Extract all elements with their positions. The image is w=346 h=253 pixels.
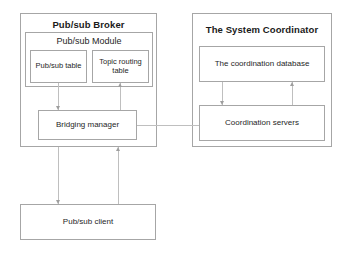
arrowhead-up-bridging-to-topic-routing <box>118 83 122 87</box>
coordination-database-box: The coordination database <box>199 46 325 82</box>
pubsub-module-title: Pub/sub Module <box>25 36 153 46</box>
arrowhead-down-broker-to-client <box>56 200 60 204</box>
connector-broker-to-client <box>58 147 59 204</box>
pubsub-client-box: Pub/sub client <box>20 204 156 240</box>
system-coordinator-title: The System Coordinator <box>192 24 332 35</box>
connector-bridging-to-topic-routing <box>120 83 121 110</box>
connector-bridging-to-coordination-servers <box>137 125 199 126</box>
arrowhead-up-servers-to-database <box>290 82 294 86</box>
topic-routing-table-box: Topic routing table <box>92 50 149 83</box>
arrowhead-up-client-to-broker <box>116 147 120 151</box>
coordination-servers-box: Coordination servers <box>199 105 325 141</box>
arrowhead-down-pubsub-table-to-bridging <box>56 106 60 110</box>
pubsub-broker-title: Pub/sub Broker <box>20 19 157 30</box>
coordination-database-label: The coordination database <box>213 59 312 68</box>
pubsub-table-label: Pub/sub table <box>34 62 84 71</box>
arrowhead-down-database-to-servers <box>220 101 224 105</box>
coordination-servers-label: Coordination servers <box>223 118 301 127</box>
topic-routing-table-label: Topic routing table <box>93 58 148 75</box>
pubsub-client-label: Pub/sub client <box>61 217 115 226</box>
bridging-manager-box: Bridging manager <box>38 110 137 140</box>
connector-client-to-broker <box>118 147 119 204</box>
diagram-canvas: Pub/sub Broker Pub/sub Module Pub/sub ta… <box>0 0 346 253</box>
bridging-manager-label: Bridging manager <box>54 120 121 129</box>
pubsub-table-box: Pub/sub table <box>30 50 87 83</box>
